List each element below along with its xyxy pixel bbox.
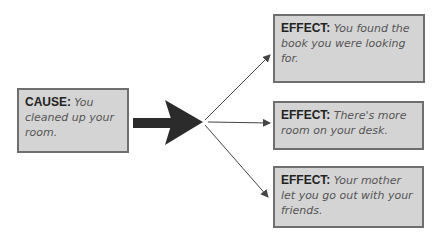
effect-box-1: EFFECT: You found the book you were look… — [273, 14, 425, 83]
effect-box-2: EFFECT: There's more room on your desk. — [273, 101, 424, 150]
cause-box: CAUSE: You cleaned up your room. — [17, 88, 129, 153]
effect-label: EFFECT: — [281, 108, 334, 122]
effect-box-3: EFFECT: Your mother let you go out with … — [273, 166, 424, 228]
arrow-to-effect-3 — [205, 125, 268, 197]
cause-label: CAUSE: — [25, 95, 74, 109]
effect-label: EFFECT: — [281, 21, 334, 35]
arrow-to-effect-2 — [208, 122, 270, 123]
big-arrow-icon — [133, 100, 203, 145]
effect-label: EFFECT: — [281, 173, 334, 187]
arrow-to-effect-1 — [205, 55, 270, 120]
